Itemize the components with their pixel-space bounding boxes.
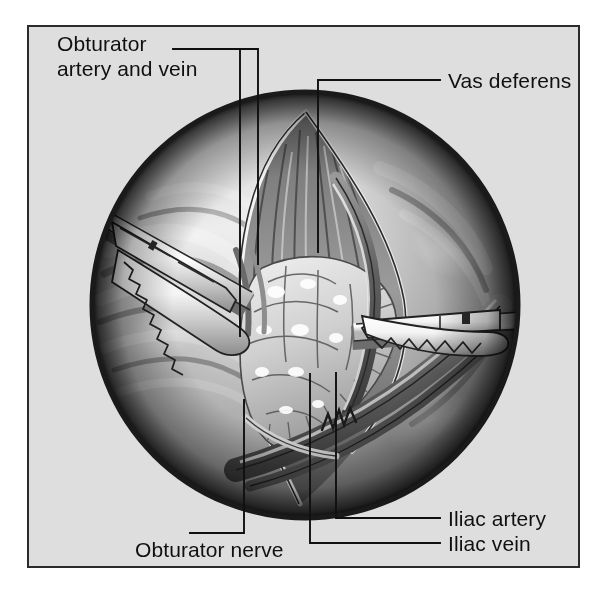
- label-iliac-artery: Iliac artery: [448, 506, 546, 531]
- label-obturator-artery-and-vein-line2: artery and vein: [57, 56, 197, 81]
- label-iliac-vein: Iliac vein: [448, 531, 531, 556]
- label-obturator-artery-and-vein-line1: Obturator: [57, 31, 197, 56]
- label-obturator-artery-and-vein: Obturator artery and vein: [57, 31, 197, 81]
- illustration-root: Obturator artery and vein Vas deferens I…: [0, 0, 606, 595]
- label-vas-deferens: Vas deferens: [448, 68, 571, 93]
- label-obturator-nerve: Obturator nerve: [135, 537, 284, 562]
- endoscopic-field: [86, 90, 520, 520]
